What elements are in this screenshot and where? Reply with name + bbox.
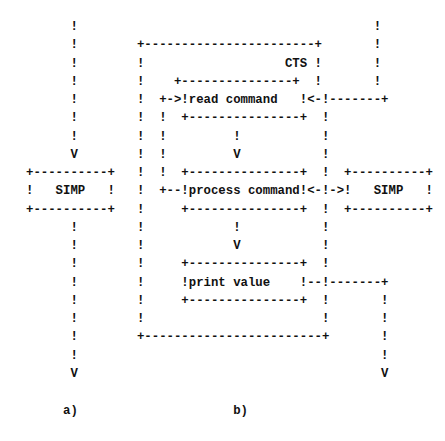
diagram-row-5: ! ! ! +---------------+ ! <box>26 109 329 127</box>
diagram-row-process-command: ! SIMP ! ! +--!process command!<-!->! SI… <box>26 182 433 200</box>
diagram-row-13: ! ! +---------------+ ! <box>26 255 329 273</box>
diagram-row-cts-label: ! ! CTS ! ! <box>26 55 381 73</box>
diagram-row-17: ! +------------------------+ ! <box>26 328 389 346</box>
diagram-row-1: ! +-----------------------+ ! <box>26 36 381 54</box>
diagram-row-7: V ! ! V ! <box>26 146 329 164</box>
diagram-row-6: ! ! ! ! ! <box>26 128 329 146</box>
diagram-row-19: V V <box>26 365 389 383</box>
diagram-row-18: ! ! <box>26 347 389 365</box>
diagram-row-8: +----------+ ! ! +---------------+ ! +--… <box>26 164 433 182</box>
diagram-row-read-command: ! ! +->!read command !<-!-------+ <box>26 91 389 109</box>
diagram-row-12: ! ! V ! <box>26 237 329 255</box>
diagram-row-15: ! ! +---------------+ ! ! <box>26 292 389 310</box>
diagram-row-3: ! ! +---------------+ ! ! <box>26 73 381 91</box>
diagram-row-16: ! ! ! ! <box>26 310 389 328</box>
panel-labels: a) b) <box>26 402 248 420</box>
diagram-row-10: +----------+ ! +---------------+ ! +----… <box>26 201 433 219</box>
diagram-row-print-value: ! ! !print value !--!-------+ <box>26 274 389 292</box>
ascii-diagram: ! ! ! +-----------------------+ ! ! ! CT… <box>0 0 445 441</box>
diagram-row-11: ! ! ! ! <box>26 219 329 237</box>
diagram-row-0: ! ! <box>26 18 381 36</box>
